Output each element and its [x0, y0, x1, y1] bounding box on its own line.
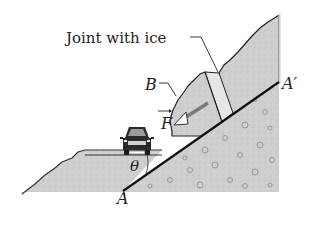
force-F-label: F [161, 116, 172, 132]
point-A-prime-label: A′ [282, 76, 297, 92]
F-vector-arrow-icon [158, 109, 172, 113]
joint-leader-line [190, 37, 218, 72]
joint-with-ice-label: Joint with ice [66, 31, 166, 46]
block-B-label: B [145, 77, 157, 93]
car-icon [120, 127, 154, 155]
point-A-label: A [117, 191, 129, 207]
angle-theta-label: θ [130, 159, 139, 174]
B-leader-line [159, 83, 176, 96]
